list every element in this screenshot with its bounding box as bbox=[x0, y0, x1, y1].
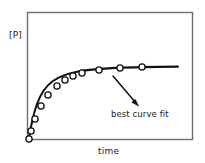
x-axis-label: time bbox=[98, 146, 119, 156]
chart-figure: [P] time best curve fit bbox=[0, 0, 205, 163]
data-point bbox=[38, 103, 44, 109]
data-point bbox=[117, 65, 123, 71]
data-point bbox=[139, 64, 145, 70]
data-point bbox=[26, 136, 32, 142]
y-axis-label: [P] bbox=[9, 30, 22, 40]
data-point-group bbox=[26, 64, 145, 142]
data-point bbox=[70, 73, 76, 79]
data-point bbox=[32, 116, 38, 122]
data-point bbox=[28, 128, 34, 134]
plot-frame bbox=[28, 13, 193, 140]
plot-area-svg bbox=[0, 0, 205, 163]
data-point bbox=[62, 77, 68, 83]
data-point bbox=[54, 83, 60, 89]
data-point bbox=[96, 67, 102, 73]
data-point bbox=[45, 92, 51, 98]
best-fit-curve bbox=[29, 67, 179, 141]
annotation-arrow bbox=[113, 76, 139, 106]
data-point bbox=[79, 70, 85, 76]
best-curve-fit-annotation: best curve fit bbox=[111, 109, 169, 119]
